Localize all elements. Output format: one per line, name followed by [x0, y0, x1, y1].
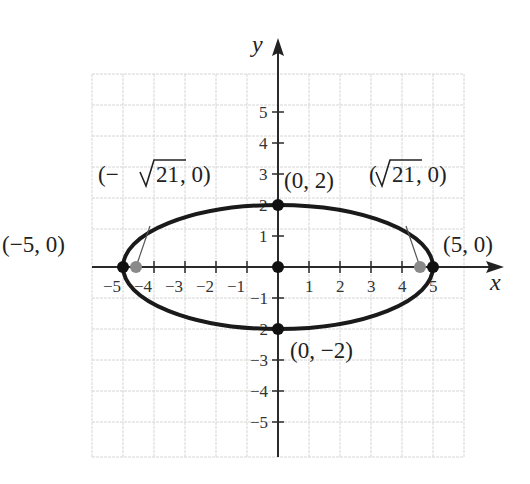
point-bottom-covertex — [272, 323, 284, 335]
x-axis-label: x — [489, 269, 501, 295]
label-right-vertex: (5, 0) — [443, 232, 493, 257]
label-top-covertex: (0, 2) — [284, 168, 334, 193]
label-right-focus: ( 21 , 0) — [369, 160, 447, 187]
label-left-vertex: (−5, 0) — [2, 232, 65, 257]
svg-text:3: 3 — [259, 165, 268, 184]
svg-text:−1: −1 — [250, 289, 268, 308]
point-right-focus — [414, 261, 426, 273]
svg-text:−3: −3 — [165, 277, 183, 296]
svg-text:1: 1 — [305, 277, 314, 296]
svg-text:3: 3 — [367, 277, 376, 296]
svg-text:−3: −3 — [250, 351, 268, 370]
svg-text:4: 4 — [259, 134, 268, 153]
ellipse-chart: x y −5 −4 −3 −2 −1 1 2 3 4 5 — [0, 0, 530, 484]
svg-text:−5: −5 — [103, 277, 121, 296]
point-right-vertex — [427, 261, 439, 273]
svg-text:−2: −2 — [196, 277, 214, 296]
right-focus-leader — [406, 226, 419, 264]
svg-text:, 0): , 0) — [180, 162, 211, 187]
svg-text:5: 5 — [259, 103, 268, 122]
y-axis-label: y — [250, 31, 263, 57]
label-bottom-covertex: (0, −2) — [290, 338, 353, 363]
svg-text:(−: (− — [98, 162, 119, 187]
point-left-focus — [130, 261, 142, 273]
svg-text:21: 21 — [156, 162, 179, 187]
svg-text:1: 1 — [259, 227, 268, 246]
svg-text:21: 21 — [392, 162, 415, 187]
point-left-vertex — [117, 261, 129, 273]
left-focus-leader — [137, 226, 150, 264]
point-center — [272, 261, 284, 273]
svg-text:−1: −1 — [227, 277, 245, 296]
svg-text:(: ( — [369, 162, 377, 187]
svg-text:−4: −4 — [250, 382, 269, 401]
x-tick-labels: −5 −4 −3 −2 −1 1 2 3 4 5 — [103, 277, 438, 296]
svg-text:−5: −5 — [250, 413, 268, 432]
svg-text:2: 2 — [336, 277, 345, 296]
svg-text:4: 4 — [398, 277, 407, 296]
point-top-covertex — [272, 199, 284, 211]
svg-text:, 0): , 0) — [416, 162, 447, 187]
